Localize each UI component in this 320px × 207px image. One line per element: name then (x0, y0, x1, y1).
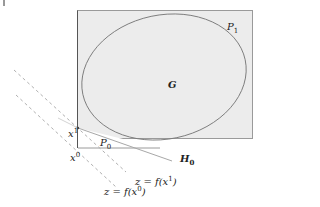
label-x0: x0 (70, 152, 80, 163)
label-level-x0: z = f(x0) (104, 186, 146, 197)
label-p0: P0 (100, 138, 111, 151)
label-h0: H0 (180, 154, 194, 166)
label-p1: P1 (227, 22, 238, 35)
label-x1: x1 (68, 128, 78, 139)
label-g: G (168, 80, 177, 90)
